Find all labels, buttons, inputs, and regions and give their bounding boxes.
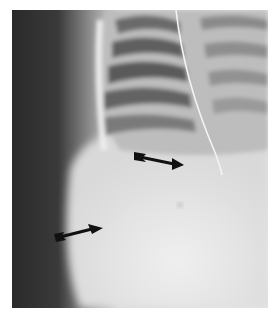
ribcage bbox=[99, 10, 268, 155]
radiograph-svg bbox=[12, 10, 268, 308]
radiograph-image bbox=[12, 10, 268, 308]
